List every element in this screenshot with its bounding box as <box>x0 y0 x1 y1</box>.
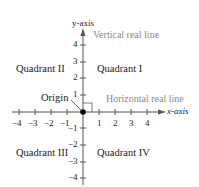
x-tick-label: −4 <box>12 119 22 128</box>
y-tick-label: 3 <box>73 57 78 66</box>
x-tick-label: −2 <box>44 119 54 128</box>
y-tick-label: −1 <box>68 124 78 133</box>
x-tick-label: −3 <box>28 119 38 128</box>
vertical-real-line-label: Vertical real line <box>93 30 159 40</box>
y-tick-label: −3 <box>68 157 78 166</box>
coordinate-plane-diagram: y-axis x-axis Vertical real line Horizon… <box>0 0 199 187</box>
origin-point <box>80 109 86 115</box>
y-tick-label: −2 <box>68 140 78 149</box>
y-tick-label: 2 <box>73 73 78 82</box>
y-tick-label: 4 <box>73 40 78 49</box>
quadrant-i-label: Quadrant I <box>97 64 142 75</box>
x-tick-label: 2 <box>113 119 118 128</box>
x-tick-label: 3 <box>129 119 134 128</box>
y-tick-label: −4 <box>68 173 78 182</box>
origin-label: Origin <box>41 93 68 104</box>
x-tick-label: 1 <box>97 119 102 128</box>
y-tick-label: 1 <box>73 90 78 99</box>
quadrant-iii-label: Quadrant III <box>16 148 68 159</box>
origin-leader-line <box>71 100 81 110</box>
x-axis-label: x-axis <box>167 107 189 116</box>
x-tick-label: 4 <box>145 119 150 128</box>
horizontal-real-line-label: Horizontal real line <box>106 94 184 104</box>
quadrant-ii-label: Quadrant II <box>16 64 65 75</box>
quadrant-iv-label: Quadrant IV <box>97 148 150 159</box>
y-axis-line <box>81 28 86 185</box>
y-axis-label: y-axis <box>72 19 94 28</box>
